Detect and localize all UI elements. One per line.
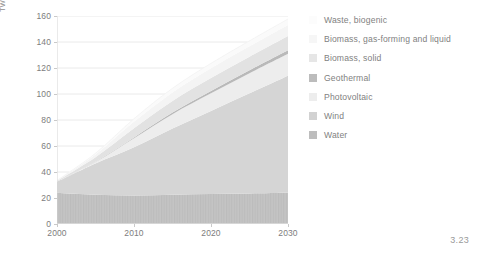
legend-swatch-icon	[309, 74, 317, 82]
y-axis-tick-label: 160	[5, 12, 51, 21]
legend-swatch-icon	[309, 54, 317, 62]
y-axis-tick-label: 60	[5, 142, 51, 151]
x-axis-tick-mark	[211, 224, 212, 227]
figure-stacked-area-chart: TWh 020406080100120140160 20002010202020…	[0, 0, 479, 254]
y-axis-tick-labels: 020406080100120140160	[3, 0, 51, 224]
legend-swatch-icon	[309, 35, 317, 43]
plot-svg	[57, 16, 288, 224]
legend-swatch-icon	[309, 93, 317, 101]
legend-item[interactable]: Photovoltaic	[309, 87, 477, 106]
legend-item-label: Photovoltaic	[324, 92, 373, 102]
y-axis-tick-label: 140	[5, 38, 51, 47]
x-axis-tick-mark	[134, 224, 135, 227]
area-series-group	[57, 19, 288, 224]
x-axis-tick-mark	[288, 224, 289, 227]
legend-item[interactable]: Biomass, gas-forming and liquid	[309, 29, 477, 48]
x-axis-tick-label: 2010	[124, 228, 143, 238]
area-series-water	[57, 193, 288, 224]
x-axis-tick-mark	[57, 224, 58, 227]
legend-item[interactable]: Biomass, solid	[309, 49, 477, 68]
y-axis-tick-label: 80	[5, 116, 51, 125]
legend-item[interactable]: Geothermal	[309, 68, 477, 87]
x-axis-tick-label: 2030	[278, 228, 297, 238]
legend-item-label: Wind	[324, 111, 344, 121]
y-axis-tick-label: 120	[5, 64, 51, 73]
legend-swatch-icon	[309, 131, 317, 139]
legend-swatch-icon	[309, 16, 317, 24]
y-axis-tick-label: 100	[5, 90, 51, 99]
legend-item-label: Waste, biogenic	[324, 15, 387, 25]
x-axis-tick-label: 2020	[201, 228, 220, 238]
x-axis-tick-label: 2000	[47, 228, 66, 238]
legend-item[interactable]: Water	[309, 126, 477, 145]
y-axis-tick-label: 40	[5, 168, 51, 177]
legend-item-label: Biomass, solid	[324, 53, 382, 63]
legend-item[interactable]: Wind	[309, 106, 477, 125]
legend-item-label: Water	[324, 130, 347, 140]
y-axis-tick-label: 20	[5, 194, 51, 203]
legend-item-label: Geothermal	[324, 73, 370, 83]
legend-swatch-icon	[309, 112, 317, 120]
legend-item[interactable]: Waste, biogenic	[309, 10, 477, 29]
plot-area	[57, 16, 288, 224]
x-axis-tick-labels: 2000201020202030	[0, 228, 340, 242]
chart-legend: Waste, biogenicBiomass, gas-forming and …	[309, 10, 477, 145]
legend-item-label: Biomass, gas-forming and liquid	[324, 34, 451, 44]
figure-number: 3.23	[450, 235, 469, 245]
